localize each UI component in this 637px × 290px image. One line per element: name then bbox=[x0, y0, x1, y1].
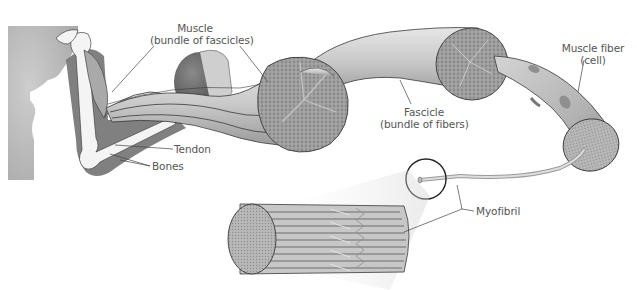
label-myofibril: Myofibril bbox=[476, 205, 520, 217]
leader-fascicle bbox=[400, 80, 411, 104]
label-fascicle-line2: (bundle of fibers) bbox=[380, 118, 468, 130]
diagram-artwork bbox=[0, 0, 637, 290]
label-muscle: Muscle (bundle of fascicles) bbox=[150, 22, 240, 46]
leader-muscle-left bbox=[112, 46, 154, 92]
muscle-cross-section bbox=[258, 57, 348, 152]
label-muscle-line1: Muscle bbox=[177, 22, 213, 34]
label-tendon: Tendon bbox=[174, 143, 211, 155]
muscle-structure-diagram: Muscle (bundle of fascicles) Fascicle (b… bbox=[0, 0, 637, 290]
label-fascicle-line1: Fascicle bbox=[404, 106, 444, 118]
myofibril-enlarged bbox=[228, 204, 409, 274]
label-bones: Bones bbox=[152, 160, 184, 172]
label-muscle-fiber: Muscle fiber (cell) bbox=[558, 42, 628, 66]
label-muscle-fiber-line2: (cell) bbox=[558, 54, 628, 66]
leader-muscle-right bbox=[240, 46, 268, 82]
myofibril-thread bbox=[418, 150, 584, 183]
leader-bones-1 bbox=[120, 160, 150, 166]
label-muscle-line2: (bundle of fascicles) bbox=[150, 34, 240, 46]
label-fascicle: Fascicle (bundle of fibers) bbox=[380, 106, 468, 130]
label-muscle-fiber-line1: Muscle fiber bbox=[562, 42, 625, 54]
leader-myofibril bbox=[457, 185, 474, 211]
